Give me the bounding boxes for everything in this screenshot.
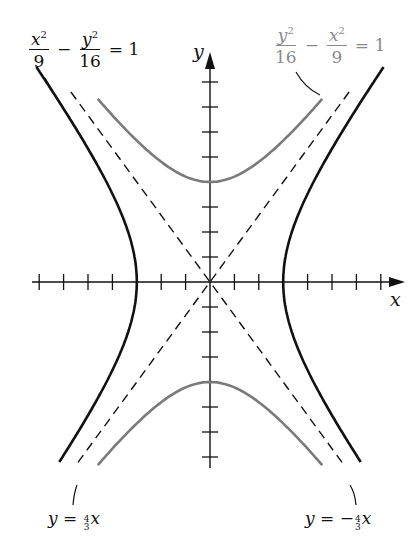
y-axis-arrow-icon bbox=[205, 52, 215, 69]
leader-line-asym2 bbox=[350, 485, 356, 505]
asymptote-label-positive: y = 43x bbox=[48, 508, 100, 531]
x-axis-arrow-icon bbox=[389, 277, 405, 287]
leader-line-eq2 bbox=[296, 72, 320, 95]
leader-line-asym1 bbox=[73, 485, 77, 505]
leader-line-eq1 bbox=[45, 78, 64, 110]
x-axis-label: x bbox=[390, 288, 401, 310]
equation-label-horizontal-hyperbola: x29 − y216 = 1 bbox=[26, 26, 144, 71]
y-axis-label: y bbox=[193, 40, 204, 62]
hyperbola-plot bbox=[0, 0, 420, 550]
equation-label-vertical-hyperbola: y216 − x29 = 1 bbox=[272, 22, 390, 67]
asymptote-label-negative: y = −43x bbox=[305, 508, 371, 531]
